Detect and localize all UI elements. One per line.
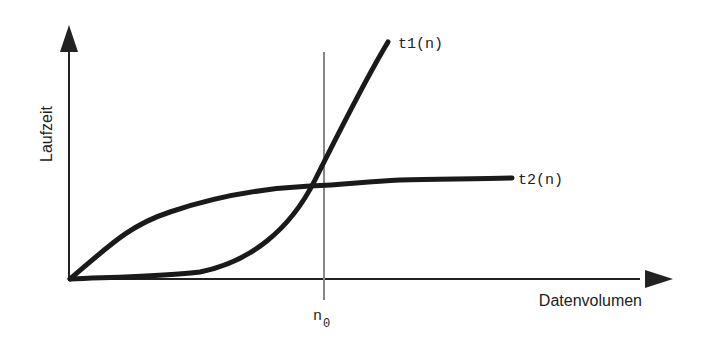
n0-label: n bbox=[313, 308, 322, 325]
t2-curve bbox=[70, 178, 512, 279]
x-axis-arrow-icon bbox=[645, 270, 673, 288]
t1-label: t1(n) bbox=[398, 36, 443, 53]
y-axis-arrow-icon bbox=[60, 25, 78, 52]
t2-label: t2(n) bbox=[518, 172, 563, 189]
y-axis-label: Laufzeit bbox=[38, 105, 55, 162]
n0-subscript: 0 bbox=[323, 317, 330, 331]
t1-curve bbox=[70, 42, 388, 279]
complexity-chart: Laufzeit Datenvolumen t1(n) t2(n) n 0 bbox=[0, 0, 712, 341]
x-axis-label: Datenvolumen bbox=[539, 292, 642, 309]
